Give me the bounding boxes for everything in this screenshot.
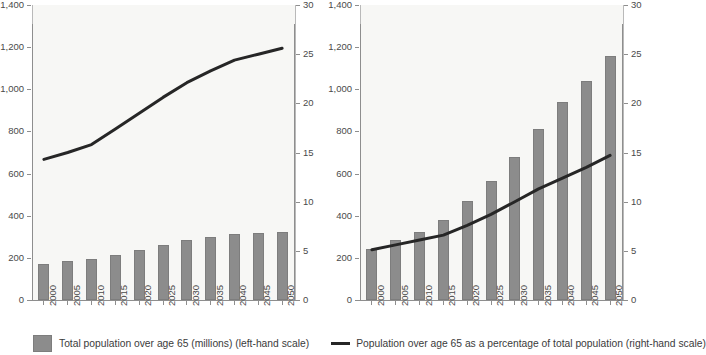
x-axis-tick-mark [186, 301, 187, 305]
x-axis-category-label: 2000 [48, 285, 58, 306]
x-axis-tick-mark [139, 301, 140, 305]
x-axis-tick-mark [562, 301, 563, 305]
line-series [0, 0, 328, 325]
x-axis-tick-mark [258, 301, 259, 305]
x-axis-tick-mark [282, 301, 283, 305]
x-axis-category-label: 2035 [543, 285, 553, 306]
x-axis-category-label: 2040 [238, 285, 248, 306]
x-axis-category-label: 2030 [519, 285, 529, 306]
x-axis-tick-mark [67, 301, 68, 305]
x-axis-category-label: 2015 [447, 285, 457, 306]
x-axis-tick-mark [586, 301, 587, 305]
x-axis-tick-mark [538, 301, 539, 305]
x-axis-tick-mark [610, 301, 611, 305]
x-axis-category-label: 2045 [590, 285, 600, 306]
x-axis-category-label: 2015 [119, 285, 129, 306]
x-axis-category-label: 2020 [471, 285, 481, 306]
x-axis-tick-mark [234, 301, 235, 305]
x-axis-tick-mark [371, 301, 372, 305]
x-axis-tick-mark [514, 301, 515, 305]
x-axis-category-label: 2005 [400, 285, 410, 306]
line-path [372, 155, 610, 249]
legend-line-swatch [331, 342, 350, 346]
x-axis-category-label: 2020 [143, 285, 153, 306]
x-axis-tick-mark [115, 301, 116, 305]
x-axis-tick-mark [91, 301, 92, 305]
legend-bar-swatch [33, 335, 52, 352]
x-axis-tick-mark [443, 301, 444, 305]
x-axis-tick-mark [43, 301, 44, 305]
x-axis-category-label: 2025 [167, 285, 177, 306]
x-axis-category-label: 2000 [376, 285, 386, 306]
x-axis-category-label: 2050 [286, 285, 296, 306]
x-axis-tick-mark [419, 301, 420, 305]
x-axis-tick-mark [395, 301, 396, 305]
line-path [44, 48, 282, 159]
x-axis-category-label: 2035 [215, 285, 225, 306]
chart-panel-a: A. Developed countries 02004006008001,00… [0, 0, 328, 325]
x-axis-category-label: 2030 [191, 285, 201, 306]
legend-bar-label: Total population over age 65 (millions) … [59, 338, 309, 349]
chart-legend: Total population over age 65 (millions) … [0, 332, 657, 355]
x-axis-tick-mark [163, 301, 164, 305]
x-axis-category-label: 2040 [566, 285, 576, 306]
x-axis-tick-mark [491, 301, 492, 305]
x-axis-category-label: 2045 [262, 285, 272, 306]
line-series [329, 0, 657, 325]
x-axis-category-label: 2050 [614, 285, 624, 306]
x-axis-category-label: 2025 [495, 285, 505, 306]
x-axis-category-label: 2005 [72, 285, 82, 306]
x-axis-tick-mark [467, 301, 468, 305]
x-axis-category-label: 2010 [424, 285, 434, 306]
x-axis-category-label: 2010 [96, 285, 106, 306]
x-axis-tick-mark [210, 301, 211, 305]
chart-panel-b: B. Developing countries 02004006008001,0… [329, 0, 657, 325]
legend-line-label: Population over age 65 as a percentage o… [356, 338, 706, 349]
